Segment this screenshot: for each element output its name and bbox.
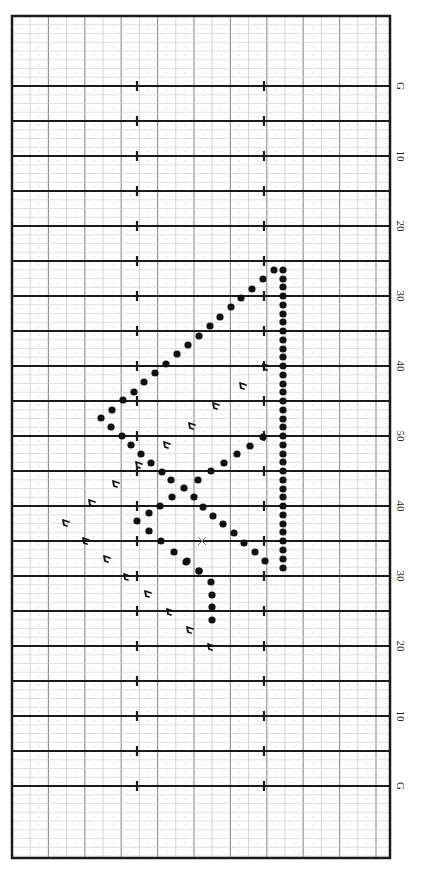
grid-dot: [57, 816, 58, 817]
grid-dot: [239, 125, 240, 126]
grid-dot: [148, 799, 149, 800]
grid-dot: [330, 842, 331, 843]
grid-dot: [275, 484, 276, 485]
grid-dot: [75, 816, 76, 817]
grid-dot: [148, 431, 149, 432]
grid-dot: [257, 562, 258, 563]
grid-dot: [112, 536, 113, 537]
grid-dot: [21, 545, 22, 546]
grid-dot: [203, 746, 204, 747]
grid-dot: [93, 186, 94, 187]
grid-dot: [21, 597, 22, 598]
grid-dot: [330, 562, 331, 563]
grid-dot: [39, 64, 40, 65]
grid-dot: [75, 466, 76, 467]
grid-dot: [221, 685, 222, 686]
grid-dot: [203, 440, 204, 441]
grid-dot: [239, 204, 240, 205]
grid-dot: [275, 737, 276, 738]
grid-dot: [184, 492, 185, 493]
grid-dot: [330, 177, 331, 178]
grid-dot: [39, 422, 40, 423]
grid-dot: [203, 90, 204, 91]
grid-dot: [21, 632, 22, 633]
grid-dot: [39, 562, 40, 563]
grid-dot: [366, 764, 367, 765]
grid-dot: [385, 352, 386, 353]
performer-dot: [195, 332, 202, 339]
grid-dot: [21, 317, 22, 318]
grid-dot: [75, 142, 76, 143]
grid-dot: [385, 317, 386, 318]
grid-dot: [312, 842, 313, 843]
grid-dot: [166, 834, 167, 835]
grid-dot: [275, 72, 276, 73]
grid-dot: [21, 484, 22, 485]
grid-dot: [148, 142, 149, 143]
grid-dot: [294, 29, 295, 30]
performer-dot: [279, 537, 286, 544]
grid-dot: [93, 177, 94, 178]
grid-dot: [130, 842, 131, 843]
grid-dot: [21, 781, 22, 782]
grid-dot: [75, 169, 76, 170]
grid-dot: [184, 256, 185, 257]
grid-dot: [330, 694, 331, 695]
grid-dot: [239, 431, 240, 432]
performer-dot: [158, 468, 165, 475]
grid-dot: [203, 125, 204, 126]
grid-dot: [130, 536, 131, 537]
grid-dot: [93, 440, 94, 441]
grid-dot: [148, 449, 149, 450]
grid-dot: [112, 580, 113, 581]
grid-dot: [93, 309, 94, 310]
grid-dot: [312, 431, 313, 432]
grid-dot: [385, 440, 386, 441]
grid-dot: [166, 825, 167, 826]
grid-dot: [385, 90, 386, 91]
grid-dot: [312, 536, 313, 537]
grid-dot: [221, 632, 222, 633]
grid-dot: [221, 772, 222, 773]
grid-dot: [112, 221, 113, 222]
grid-dot: [366, 720, 367, 721]
grid-dot: [93, 475, 94, 476]
grid-dot: [203, 379, 204, 380]
grid-dot: [203, 265, 204, 266]
grid-dot: [348, 667, 349, 668]
grid-dot: [39, 396, 40, 397]
grid-dot: [330, 431, 331, 432]
grid-dot: [312, 169, 313, 170]
grid-dot: [93, 282, 94, 283]
performer-dot: [279, 353, 286, 360]
performer-dot: [190, 493, 197, 500]
grid-dot: [112, 387, 113, 388]
grid-dot: [184, 405, 185, 406]
grid-dot: [130, 764, 131, 765]
grid-dot: [148, 291, 149, 292]
grid-dot: [385, 46, 386, 47]
grid-dot: [57, 790, 58, 791]
grid-dot: [39, 475, 40, 476]
grid-dot: [184, 711, 185, 712]
grid-dot: [130, 772, 131, 773]
grid-dot: [203, 632, 204, 633]
grid-dot: [39, 37, 40, 38]
grid-dot: [203, 807, 204, 808]
grid-dot: [257, 414, 258, 415]
grid-dot: [57, 256, 58, 257]
grid-dot: [112, 641, 113, 642]
grid-dot: [294, 300, 295, 301]
grid-dot: [221, 55, 222, 56]
grid-dot: [221, 659, 222, 660]
grid-dot: [312, 641, 313, 642]
performer-dot: [279, 266, 286, 273]
grid-dot: [166, 720, 167, 721]
grid-dot: [57, 580, 58, 581]
grid-dot: [57, 702, 58, 703]
grid-dot: [39, 300, 40, 301]
grid-dot: [275, 755, 276, 756]
grid-dot: [166, 615, 167, 616]
performer-dot: [279, 458, 286, 465]
grid-dot: [57, 291, 58, 292]
